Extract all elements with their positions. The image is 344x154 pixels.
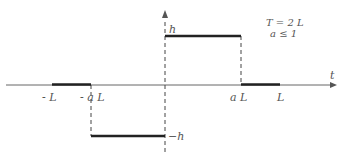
t-axis-label: t bbox=[330, 69, 335, 82]
tick-minus-aL: - a L bbox=[80, 91, 105, 104]
tick-aL: a L bbox=[230, 91, 247, 104]
square-wave-diagram: h −h - L - a L a L L t T = 2 L a ≤ 1 bbox=[0, 0, 344, 154]
tick-minus-L: - L bbox=[42, 91, 57, 104]
vertical-axis-arrow-icon bbox=[162, 10, 168, 18]
t-axis-arrow-icon bbox=[330, 82, 337, 88]
constraint-annotation: a ≤ 1 bbox=[270, 28, 297, 39]
period-annotation: T = 2 L bbox=[266, 17, 304, 28]
level-minus-h-label: −h bbox=[168, 130, 184, 143]
tick-L: L bbox=[276, 91, 284, 104]
level-h-label: h bbox=[169, 23, 176, 36]
